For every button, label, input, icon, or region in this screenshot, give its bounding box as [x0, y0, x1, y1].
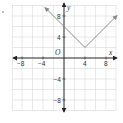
item-bullet — [2, 11, 4, 13]
x-tick-label: 4 — [83, 60, 87, 67]
y-tick-label: −4 — [54, 76, 62, 83]
x-tick-label: 8 — [104, 60, 108, 67]
absolute-value-graph — [45, 8, 85, 48]
y-tick-label: 4 — [57, 34, 61, 41]
y-tick-label: −8 — [54, 97, 62, 104]
x-tick-label: −8 — [17, 60, 25, 67]
x-tick-label: −4 — [38, 60, 46, 67]
y-tick-label: 8 — [57, 13, 61, 20]
x-axis-label: x — [108, 48, 113, 57]
origin-label: O — [55, 48, 61, 57]
coordinate-plane: y x O −8 −4 4 8 8 4 −4 −8 — [0, 0, 123, 123]
y-axis-label: y — [66, 3, 71, 12]
absolute-value-graph-right — [85, 16, 117, 48]
